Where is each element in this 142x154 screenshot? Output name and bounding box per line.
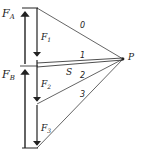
label-f3: F3 [40, 123, 51, 134]
label-f2: F2 [40, 79, 51, 90]
label-f1: F1 [40, 32, 51, 43]
label-fa: FA [1, 7, 15, 21]
label-ray-3: 3 [80, 90, 85, 99]
label-ray-2: 2 [80, 71, 85, 80]
label-fb: FB [1, 68, 15, 82]
label-s: S [66, 67, 72, 77]
force-diagram: FA FB F1 F2 F3 S P 0 1 2 3 [0, 0, 142, 154]
label-ray-0: 0 [80, 21, 85, 30]
pole-point [122, 58, 125, 61]
label-p: P [127, 52, 135, 62]
label-ray-1: 1 [80, 51, 85, 60]
